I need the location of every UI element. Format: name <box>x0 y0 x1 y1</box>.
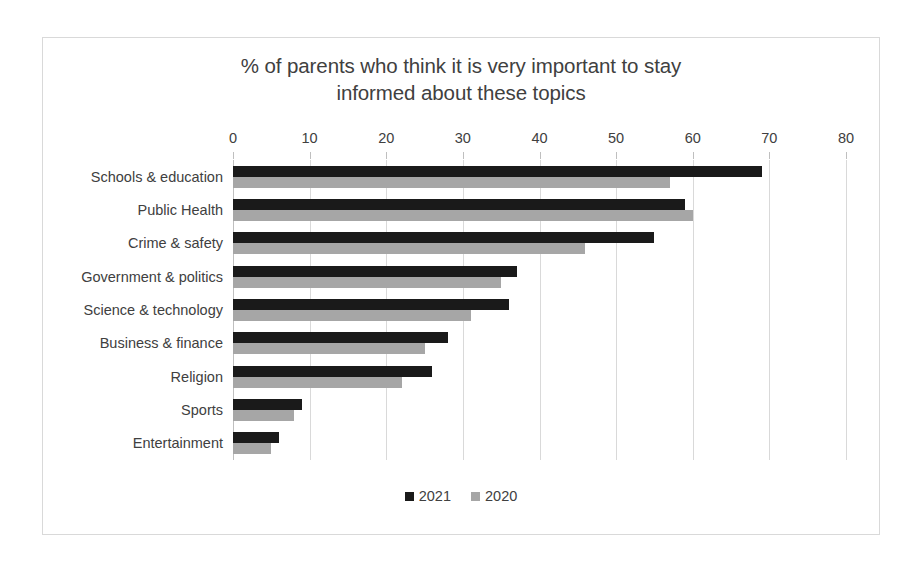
chart-title: % of parents who think it is very import… <box>43 52 879 106</box>
chart-container: % of parents who think it is very import… <box>42 37 880 535</box>
bar-group <box>233 199 846 221</box>
bar-2020 <box>233 377 402 388</box>
bar-2021 <box>233 299 509 310</box>
chart-title-line-2: informed about these topics <box>43 79 879 106</box>
x-tick-label-40: 40 <box>531 130 547 146</box>
tickmark-10 <box>310 152 311 159</box>
bar-2021 <box>233 232 654 243</box>
tickmark-40 <box>540 152 541 159</box>
bar-2021 <box>233 266 517 277</box>
bar-group <box>233 299 846 321</box>
category-label: Business & finance <box>100 335 223 351</box>
legend-label: 2020 <box>485 488 517 504</box>
tickmark-30 <box>463 152 464 159</box>
category-label: Crime & safety <box>128 235 223 251</box>
y-axis-category-labels: Schools & educationPublic HealthCrime & … <box>43 160 229 460</box>
x-tick-label-60: 60 <box>685 130 701 146</box>
bar-2020 <box>233 410 294 421</box>
category-label: Religion <box>171 369 223 385</box>
x-tick-label-70: 70 <box>761 130 777 146</box>
tickmark-70 <box>769 152 770 159</box>
x-axis-tickmarks <box>233 152 846 160</box>
chart-legend: 20212020 <box>43 488 879 504</box>
bar-group <box>233 432 846 454</box>
plot-area <box>233 160 846 460</box>
x-tick-label-10: 10 <box>302 130 318 146</box>
legend-label: 2021 <box>419 488 451 504</box>
category-label: Sports <box>181 402 223 418</box>
x-axis-tick-labels: 01020304050607080 <box>233 130 846 152</box>
bar-2020 <box>233 343 425 354</box>
bar-2020 <box>233 310 471 321</box>
bar-2021 <box>233 432 279 443</box>
bar-group <box>233 332 846 354</box>
bar-2021 <box>233 332 448 343</box>
category-label: Science & technology <box>84 302 223 318</box>
gridline-80 <box>846 160 847 460</box>
tickmark-50 <box>616 152 617 159</box>
bar-group <box>233 266 846 288</box>
bar-2020 <box>233 243 585 254</box>
legend-swatch-icon <box>405 492 414 501</box>
tickmark-80 <box>846 152 847 159</box>
bar-group <box>233 232 846 254</box>
bar-2021 <box>233 166 762 177</box>
bar-group <box>233 366 846 388</box>
legend-item[interactable]: 2021 <box>405 488 451 504</box>
chart-title-line-1: % of parents who think it is very import… <box>43 52 879 79</box>
bar-2021 <box>233 366 432 377</box>
bar-2020 <box>233 277 501 288</box>
category-label: Entertainment <box>133 435 223 451</box>
tickmark-20 <box>386 152 387 159</box>
x-tick-label-0: 0 <box>229 130 237 146</box>
bar-2020 <box>233 210 693 221</box>
category-label: Public Health <box>138 202 223 218</box>
bar-2021 <box>233 199 685 210</box>
bar-group <box>233 399 846 421</box>
bar-group <box>233 166 846 188</box>
category-label: Schools & education <box>91 169 223 185</box>
x-tick-label-20: 20 <box>378 130 394 146</box>
bar-2020 <box>233 177 670 188</box>
x-tick-label-30: 30 <box>455 130 471 146</box>
legend-swatch-icon <box>471 492 480 501</box>
tickmark-60 <box>693 152 694 159</box>
legend-item[interactable]: 2020 <box>471 488 517 504</box>
bar-2021 <box>233 399 302 410</box>
bar-2020 <box>233 443 271 454</box>
category-label: Government & politics <box>81 269 223 285</box>
x-tick-label-80: 80 <box>838 130 854 146</box>
tickmark-0 <box>233 152 234 159</box>
x-tick-label-50: 50 <box>608 130 624 146</box>
